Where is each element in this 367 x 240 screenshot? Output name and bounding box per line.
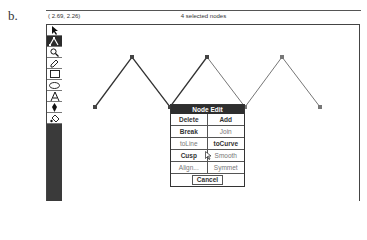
cancel-row: Cancel xyxy=(171,174,244,186)
add-button[interactable]: Add xyxy=(208,114,245,126)
pencil-tool-button[interactable] xyxy=(47,58,62,69)
outline-tool-button[interactable] xyxy=(47,102,62,113)
symmet-button[interactable]: Symmet xyxy=(208,162,245,174)
cusp-button[interactable]: Cusp xyxy=(171,150,208,162)
shape-tool-button[interactable] xyxy=(47,36,62,47)
node-handle[interactable] xyxy=(280,55,284,59)
node-handle[interactable] xyxy=(318,105,322,109)
node-handle[interactable] xyxy=(130,55,134,59)
break-button[interactable]: Break xyxy=(171,126,208,138)
zoom-tool-button[interactable] xyxy=(47,47,62,58)
join-button[interactable]: Join xyxy=(208,126,245,138)
ellipse-tool-button[interactable] xyxy=(47,80,62,91)
node-handle[interactable] xyxy=(93,105,97,109)
mouse-cursor-icon xyxy=(205,151,212,160)
rectangle-icon xyxy=(50,70,60,78)
to-curve-button[interactable]: toCurve xyxy=(208,138,245,150)
rectangle-tool-button[interactable] xyxy=(47,69,62,80)
cancel-button[interactable]: Cancel xyxy=(192,175,223,185)
pen-nib-icon xyxy=(51,103,58,112)
text-tool-button[interactable] xyxy=(47,91,62,102)
text-a-icon xyxy=(50,92,60,101)
ellipse-icon xyxy=(49,82,60,89)
magnifier-icon xyxy=(50,48,59,57)
node-handle[interactable] xyxy=(205,55,209,59)
node-edit-dialog: Node Edit Delete Add Break Join toLine t… xyxy=(170,104,245,187)
toolbox xyxy=(47,25,62,201)
delete-button[interactable]: Delete xyxy=(171,114,208,126)
fill-tool-button[interactable] xyxy=(47,113,62,124)
to-line-button[interactable]: toLine xyxy=(171,138,208,150)
align-button[interactable]: Align... xyxy=(171,162,208,174)
arrow-pointer-icon xyxy=(50,26,59,35)
dialog-title: Node Edit xyxy=(171,105,244,114)
paint-bucket-icon xyxy=(50,114,60,123)
pick-tool-button[interactable] xyxy=(47,25,62,36)
node-edit-icon xyxy=(49,37,60,46)
smooth-button[interactable]: Smooth xyxy=(208,150,245,162)
pencil-icon xyxy=(50,59,59,68)
